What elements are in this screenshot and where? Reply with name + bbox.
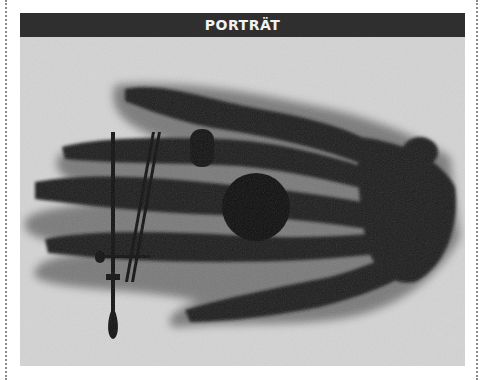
section-header: PORTRÄT [20,13,465,37]
left-dotted-border [5,0,7,380]
xray-hand-photo [20,37,465,366]
xray-hand-illustration [20,37,465,366]
right-dotted-border [476,0,478,380]
